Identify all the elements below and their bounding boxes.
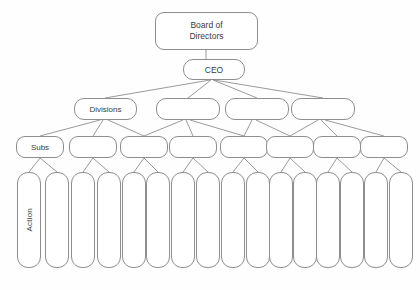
connector-line bbox=[213, 80, 257, 98]
node-action-13[interactable] bbox=[316, 172, 340, 268]
connector-line bbox=[376, 158, 384, 172]
node-action-10[interactable] bbox=[246, 172, 270, 268]
connector-line bbox=[337, 158, 352, 172]
node-board-1[interactable]: Board of Directors bbox=[155, 12, 258, 50]
org-chart-diagram: Board of DirectorsCEODivisionsSubsAction bbox=[0, 0, 420, 290]
connector-line bbox=[108, 120, 144, 136]
node-label: Board of Directors bbox=[189, 20, 223, 42]
connector-line bbox=[29, 158, 40, 172]
node-action-3[interactable] bbox=[71, 172, 95, 268]
connector-line bbox=[256, 120, 290, 136]
node-action-11[interactable] bbox=[269, 172, 293, 268]
node-divisions-3[interactable] bbox=[225, 98, 289, 120]
node-action-6[interactable] bbox=[146, 172, 170, 268]
connector-line bbox=[105, 80, 210, 98]
connector-line bbox=[384, 158, 401, 172]
node-label: Action bbox=[25, 208, 34, 231]
connector-line bbox=[328, 158, 337, 172]
connector-line bbox=[325, 120, 384, 136]
node-action-5[interactable] bbox=[122, 172, 146, 268]
connector-line bbox=[40, 120, 100, 136]
node-label: CEO bbox=[205, 65, 223, 75]
connector-line bbox=[144, 120, 183, 136]
node-action-14[interactable] bbox=[340, 172, 364, 268]
connector-line bbox=[183, 158, 193, 172]
connector-line bbox=[144, 158, 158, 172]
node-action-15[interactable] bbox=[364, 172, 388, 268]
node-action-1[interactable]: Action bbox=[17, 172, 41, 268]
node-action-2[interactable] bbox=[45, 172, 69, 268]
node-action-12[interactable] bbox=[293, 172, 317, 268]
connector-line bbox=[134, 158, 144, 172]
node-action-16[interactable] bbox=[389, 172, 413, 268]
node-action-8[interactable] bbox=[196, 172, 220, 268]
node-subs-6[interactable] bbox=[266, 136, 314, 158]
connector-line bbox=[193, 158, 208, 172]
connector-line bbox=[93, 158, 109, 172]
connector-line bbox=[83, 158, 93, 172]
node-divisions-4[interactable] bbox=[291, 98, 355, 120]
connector-line bbox=[281, 158, 290, 172]
node-divisions-2[interactable] bbox=[156, 98, 220, 120]
connector-line bbox=[190, 120, 244, 136]
connector-line bbox=[186, 120, 193, 136]
node-action-4[interactable] bbox=[97, 172, 121, 268]
node-subs-4[interactable] bbox=[169, 136, 217, 158]
node-subs-5[interactable] bbox=[220, 136, 268, 158]
connector-line bbox=[93, 120, 103, 136]
connector-line bbox=[233, 158, 244, 172]
connector-line bbox=[214, 80, 323, 98]
connector-line bbox=[40, 158, 57, 172]
node-subs-8[interactable] bbox=[360, 136, 408, 158]
node-action-9[interactable] bbox=[221, 172, 245, 268]
connector-line bbox=[244, 158, 258, 172]
connector-line bbox=[290, 120, 318, 136]
node-ceo-1[interactable]: CEO bbox=[183, 59, 245, 80]
node-divisions-1[interactable]: Divisions bbox=[74, 98, 137, 120]
node-label: Subs bbox=[31, 143, 49, 152]
connector-line bbox=[188, 80, 211, 98]
connector-line bbox=[290, 158, 305, 172]
node-action-7[interactable] bbox=[171, 172, 195, 268]
connector-line bbox=[244, 120, 252, 136]
node-subs-2[interactable] bbox=[69, 136, 117, 158]
node-subs-7[interactable] bbox=[313, 136, 361, 158]
node-subs-3[interactable] bbox=[120, 136, 168, 158]
node-subs-1[interactable]: Subs bbox=[16, 136, 64, 158]
node-label: Divisions bbox=[89, 105, 121, 114]
